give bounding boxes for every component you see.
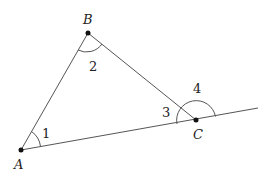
side-bc xyxy=(88,33,196,120)
angle-label-4: 4 xyxy=(193,81,201,96)
angle-label-2: 2 xyxy=(89,59,97,74)
point-a xyxy=(19,148,24,153)
vertex-label-c: C xyxy=(193,127,203,142)
angle-1-arc xyxy=(32,132,41,147)
side-ab xyxy=(21,33,88,150)
point-c xyxy=(194,118,199,123)
vertex-label-b: B xyxy=(82,12,93,27)
angle-2-arc xyxy=(78,44,102,52)
angle-label-3: 3 xyxy=(162,105,170,120)
point-b xyxy=(86,31,91,36)
angle-label-1: 1 xyxy=(42,126,50,141)
triangle-diagram: A B C 1 2 3 4 xyxy=(0,0,275,180)
line-ac-extended xyxy=(21,108,258,150)
vertex-label-a: A xyxy=(13,157,23,172)
